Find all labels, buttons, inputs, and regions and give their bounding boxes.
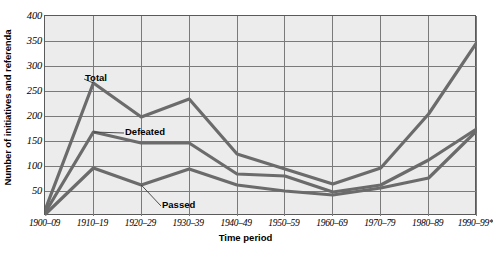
- y-tick-250: 250: [16, 85, 42, 96]
- y-tick-400: 400: [16, 10, 42, 21]
- x-tick-5: 1950–59: [268, 218, 299, 228]
- series-label-passed: Passed: [162, 199, 195, 210]
- series-label-defeated: Defeated: [125, 126, 165, 137]
- y-axis-tick-labels: 50100150200250300350400: [14, 0, 42, 230]
- leader-line-passed: [141, 185, 161, 206]
- y-tick-200: 200: [16, 110, 42, 121]
- y-tick-300: 300: [16, 60, 42, 71]
- x-tick-3: 1930–39: [173, 218, 204, 228]
- gridlines: [45, 16, 477, 216]
- y-tick-350: 350: [16, 35, 42, 46]
- series-line-passed: [46, 131, 477, 214]
- plot-svg: [45, 16, 477, 216]
- y-axis-title-text: Number of initiatives and referenda: [3, 30, 14, 186]
- x-tick-8: 1980–89: [412, 218, 443, 228]
- x-tick-1: 1910–19: [77, 218, 108, 228]
- x-tick-6: 1960–69: [316, 218, 347, 228]
- plot-area: [44, 15, 476, 215]
- x-tick-9: 1990–99*: [458, 218, 493, 228]
- series-label-total: Total: [85, 72, 107, 83]
- x-tick-4: 1940–49: [220, 218, 251, 228]
- y-tick-150: 150: [16, 135, 42, 146]
- x-tick-0: 1900–09: [29, 218, 60, 228]
- y-tick-100: 100: [16, 160, 42, 171]
- series-line-total: [46, 43, 477, 209]
- x-tick-7: 1970–79: [364, 218, 395, 228]
- x-axis-title: Time period: [0, 232, 491, 243]
- y-tick-50: 50: [16, 185, 42, 196]
- series-lines: [46, 43, 477, 214]
- x-tick-2: 1920–29: [125, 218, 156, 228]
